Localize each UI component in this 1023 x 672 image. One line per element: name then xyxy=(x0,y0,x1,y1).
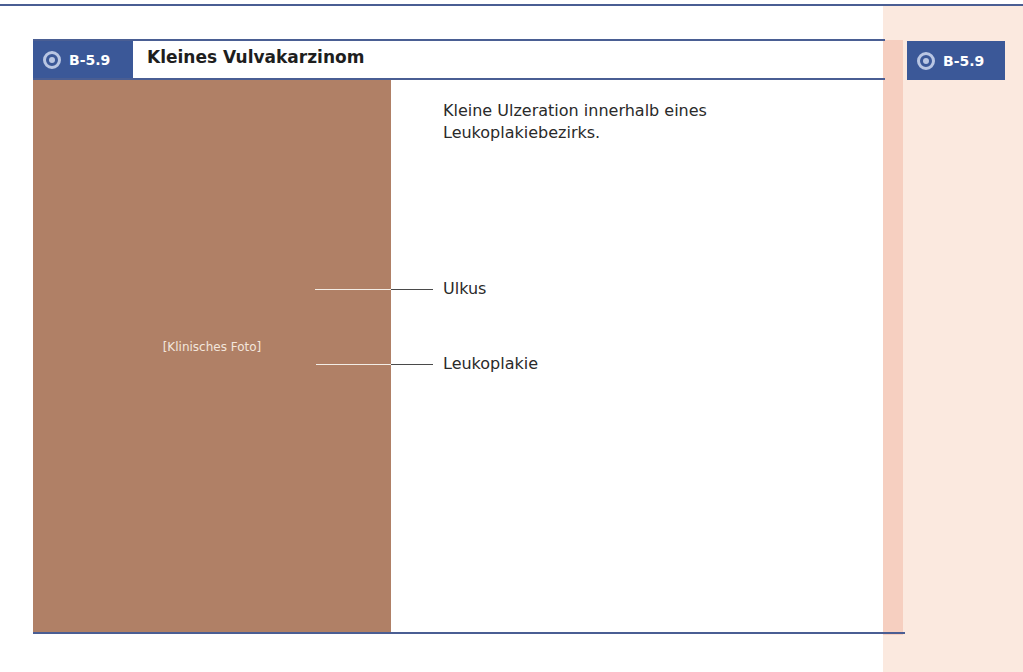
leader-line-leukoplakie xyxy=(391,364,433,365)
figure-title: Kleines Vulvakarzinom xyxy=(147,47,364,67)
label-ulkus: Ulkus xyxy=(443,279,486,298)
leader-line-ulkus-inner xyxy=(315,289,391,290)
target-icon xyxy=(917,52,935,70)
target-icon xyxy=(43,51,61,69)
figure-caption: Kleine Ulzeration innerhalb eines Leukop… xyxy=(443,100,823,144)
figure-header-rule xyxy=(33,39,885,41)
top-rule xyxy=(0,4,1023,6)
margin-column xyxy=(883,6,1023,672)
photo-placeholder-text: [Klinisches Foto] xyxy=(33,340,391,354)
margin-figure-number: B-5.9 xyxy=(943,53,984,69)
figure-bottom-rule xyxy=(33,632,905,634)
leader-line-leukoplakie-inner xyxy=(316,364,391,365)
margin-figure-badge: B-5.9 xyxy=(907,41,1005,80)
figure-number: B-5.9 xyxy=(69,52,110,68)
figure-badge: B-5.9 xyxy=(33,41,133,78)
clinical-photo-placeholder: [Klinisches Foto] xyxy=(33,80,391,632)
label-leukoplakie: Leukoplakie xyxy=(443,354,538,373)
leader-line-ulkus xyxy=(391,289,433,290)
margin-strip xyxy=(883,40,903,635)
